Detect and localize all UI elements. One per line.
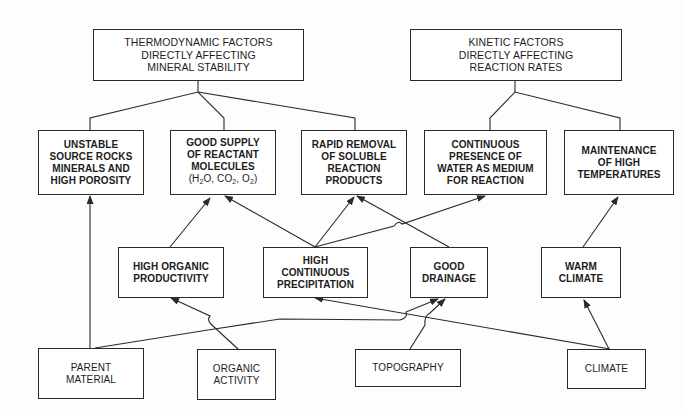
label-line: CONTINUOUS — [281, 267, 349, 279]
label-line: WATER AS MEDIUM — [437, 163, 534, 175]
label-line: MINERAL STABILITY — [147, 61, 250, 74]
label-line: REACTION RATES — [470, 61, 563, 74]
label-line: DIRECTLY AFFECTING — [141, 49, 256, 62]
weathering-diagram: THERMODYNAMIC FACTORS DIRECTLY AFFECTING… — [0, 0, 683, 411]
arrow-precip-supply — [225, 196, 315, 247]
label-line: SOURCE ROCKS — [50, 151, 133, 163]
box-unstable-source-rocks: UNSTABLE SOURCE ROCKS MINERALS AND HIGH … — [38, 130, 144, 195]
label-line: MAINTENANCE — [582, 145, 657, 157]
box-thermodynamic-factors: THERMODYNAMIC FACTORS DIRECTLY AFFECTING… — [93, 29, 304, 81]
label-line: CLIMATE — [559, 273, 603, 285]
label-line: OF REACTANT — [187, 149, 259, 161]
box-good-drainage: GOOD DRAINAGE — [410, 247, 488, 298]
box-good-supply-reactants: GOOD SUPPLY OF REACTANT MOLECULES (H2O, … — [170, 130, 276, 195]
label-line: THERMODYNAMIC FACTORS — [124, 36, 272, 49]
thermo-branch-left — [90, 92, 224, 130]
arrow-climate-warm — [584, 300, 609, 349]
label-line: GOOD SUPPLY — [186, 137, 260, 149]
box-rapid-removal: RAPID REMOVAL OF SOLUBLE REACTION PRODUC… — [301, 130, 407, 195]
box-maintenance-temperatures: MAINTENANCE OF HIGH TEMPERATURES — [564, 130, 674, 195]
label-line: CONTINUOUS — [451, 139, 519, 151]
box-climate: CLIMATE — [567, 349, 646, 389]
arrow-organicprod-supply — [170, 198, 210, 247]
box-topography: TOPOGRAPHY — [355, 349, 461, 387]
label-line: PRESENCE OF — [449, 151, 522, 163]
label-line: ACTIVITY — [214, 375, 260, 387]
box-parent-material: PARENT MATERIAL — [38, 348, 144, 399]
arrow-precip-removal — [315, 197, 354, 247]
label-line: TOPOGRAPHY — [372, 362, 443, 374]
label-line: HIGH POROSITY — [51, 175, 132, 187]
label-line: PARENT — [71, 362, 111, 374]
label-line: MOLECULES — [191, 161, 255, 173]
box-warm-climate: WARM CLIMATE — [541, 247, 621, 298]
label-line: MINERALS AND — [52, 163, 130, 175]
label-line: ORGANIC — [213, 363, 260, 375]
arrow-warm-temp — [583, 197, 618, 247]
label-line: MATERIAL — [66, 374, 116, 386]
label-line: RAPID REMOVAL — [312, 139, 396, 151]
arrow-organic-organicprod — [171, 298, 238, 349]
label-line: OF SOLUBLE — [321, 151, 386, 163]
box-high-organic-productivity: HIGH ORGANIC PRODUCTIVITY — [118, 247, 224, 298]
label-line: (H2O, CO2, O2) — [189, 173, 258, 188]
label-line: UNSTABLE — [64, 139, 119, 151]
box-continuous-water: CONTINUOUS PRESENCE OF WATER AS MEDIUM F… — [424, 130, 547, 195]
arrow-drainage-removal — [357, 196, 449, 247]
label-line: DRAINAGE — [422, 273, 476, 285]
label-line: PRECIPITATION — [277, 279, 354, 291]
thermo-branch-right — [198, 92, 355, 130]
kinetic-branches — [490, 92, 620, 130]
arrow-precip-water — [315, 196, 485, 247]
box-kinetic-factors: KINETIC FACTORS DIRECTLY AFFECTING REACT… — [410, 29, 622, 81]
label-line: PRODUCTIVITY — [133, 273, 209, 285]
label-line: CLIMATE — [585, 363, 628, 375]
arrow-climate-precip — [315, 298, 610, 349]
label-line: HIGH ORGANIC — [133, 261, 209, 273]
label-line: REACTION — [327, 163, 380, 175]
label-line: GOOD — [434, 261, 465, 273]
arrow-parent-drainage — [95, 299, 438, 348]
label-line: WARM — [565, 261, 597, 273]
arrow-topo-drainage — [410, 299, 445, 349]
label-line: PRODUCTS — [326, 175, 383, 187]
label-line: HIGH — [303, 255, 328, 267]
label-line: OF HIGH — [598, 157, 640, 169]
box-organic-activity: ORGANIC ACTIVITY — [197, 349, 276, 400]
box-high-continuous-precipitation: HIGH CONTINUOUS PRECIPITATION — [263, 247, 368, 298]
label-line: FOR REACTION — [447, 175, 524, 187]
label-line: DIRECTLY AFFECTING — [459, 49, 574, 62]
label-line: KINETIC FACTORS — [468, 36, 563, 49]
label-line: TEMPERATURES — [577, 169, 660, 181]
